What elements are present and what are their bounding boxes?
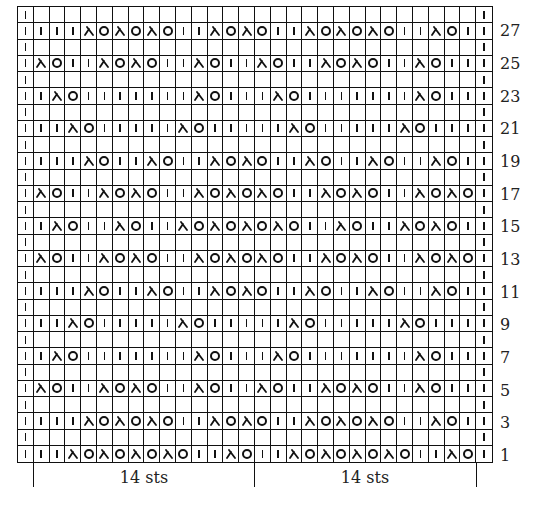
empty-cell bbox=[192, 105, 208, 121]
empty-cell bbox=[144, 430, 160, 446]
knit-stitch-icon bbox=[460, 88, 476, 104]
empty-cell bbox=[397, 300, 413, 316]
yarn-over-icon bbox=[81, 446, 97, 462]
knit-stitch-icon bbox=[445, 316, 461, 332]
empty-cell bbox=[239, 137, 255, 153]
yarn-over-icon bbox=[144, 56, 160, 72]
empty-cell bbox=[460, 202, 476, 218]
knit-stitch-icon bbox=[287, 251, 303, 267]
knit-stitch-icon bbox=[350, 348, 366, 364]
decrease-icon bbox=[302, 283, 318, 299]
empty-cell bbox=[271, 105, 287, 121]
empty-cell bbox=[318, 105, 334, 121]
decrease-icon bbox=[144, 283, 160, 299]
empty-cell bbox=[223, 72, 239, 88]
decrease-icon bbox=[445, 446, 461, 462]
knit-stitch-icon bbox=[366, 88, 382, 104]
empty-cell bbox=[397, 365, 413, 381]
knit-stitch-icon bbox=[397, 283, 413, 299]
empty-cell bbox=[350, 235, 366, 251]
decrease-icon bbox=[97, 186, 113, 202]
empty-cell bbox=[413, 137, 429, 153]
empty-cell bbox=[223, 202, 239, 218]
empty-cell bbox=[50, 202, 66, 218]
empty-cell bbox=[34, 105, 50, 121]
empty-cell bbox=[160, 137, 176, 153]
empty-cell bbox=[81, 170, 97, 186]
knit-stitch-icon bbox=[129, 153, 145, 169]
knit-stitch-icon bbox=[97, 88, 113, 104]
yarn-over-icon bbox=[302, 316, 318, 332]
empty-cell bbox=[113, 72, 129, 88]
empty-cell bbox=[271, 7, 287, 23]
knit-stitch-icon bbox=[18, 7, 34, 23]
yarn-over-icon bbox=[381, 413, 397, 429]
empty-cell bbox=[34, 170, 50, 186]
yarn-over-icon bbox=[445, 218, 461, 234]
empty-cell bbox=[460, 235, 476, 251]
empty-cell bbox=[413, 105, 429, 121]
knit-stitch-icon bbox=[287, 153, 303, 169]
knit-stitch-icon bbox=[18, 235, 34, 251]
yarn-over-icon bbox=[381, 283, 397, 299]
row-label-1: 1 bbox=[500, 448, 536, 464]
knit-stitch-icon bbox=[113, 316, 129, 332]
row-label-17: 17 bbox=[500, 187, 536, 203]
empty-cell bbox=[334, 397, 350, 413]
empty-cell bbox=[113, 300, 129, 316]
knit-stitch-icon bbox=[476, 251, 492, 267]
empty-cell bbox=[81, 7, 97, 23]
yarn-over-icon bbox=[302, 446, 318, 462]
decrease-icon bbox=[271, 88, 287, 104]
knit-stitch-icon bbox=[34, 153, 50, 169]
decrease-icon bbox=[255, 381, 271, 397]
empty-cell bbox=[334, 430, 350, 446]
empty-cell bbox=[334, 40, 350, 56]
decrease-icon bbox=[129, 186, 145, 202]
decrease-icon bbox=[208, 413, 224, 429]
yarn-over-icon bbox=[176, 446, 192, 462]
yarn-over-icon bbox=[160, 413, 176, 429]
knit-stitch-icon bbox=[302, 218, 318, 234]
knit-stitch-icon bbox=[476, 413, 492, 429]
knit-stitch-icon bbox=[350, 316, 366, 332]
yarn-over-icon bbox=[287, 218, 303, 234]
knit-stitch-icon bbox=[192, 283, 208, 299]
knit-stitch-icon bbox=[366, 121, 382, 137]
knit-stitch-icon bbox=[97, 121, 113, 137]
knit-stitch-icon bbox=[223, 381, 239, 397]
knit-stitch-icon bbox=[65, 381, 81, 397]
empty-cell bbox=[350, 7, 366, 23]
yarn-over-icon bbox=[413, 121, 429, 137]
empty-cell bbox=[65, 365, 81, 381]
knit-stitch-icon bbox=[50, 316, 66, 332]
empty-cell bbox=[34, 137, 50, 153]
empty-cell bbox=[144, 137, 160, 153]
empty-cell bbox=[113, 430, 129, 446]
empty-cell bbox=[50, 267, 66, 283]
knit-stitch-icon bbox=[176, 251, 192, 267]
knit-stitch-icon bbox=[255, 446, 271, 462]
empty-cell bbox=[287, 430, 303, 446]
empty-cell bbox=[366, 235, 382, 251]
yarn-over-icon bbox=[255, 23, 271, 39]
empty-cell bbox=[160, 202, 176, 218]
knit-stitch-icon bbox=[50, 121, 66, 137]
decrease-icon bbox=[413, 186, 429, 202]
knit-stitch-icon bbox=[223, 56, 239, 72]
knit-stitch-icon bbox=[460, 283, 476, 299]
repeat-marker-middle bbox=[254, 463, 255, 487]
knit-stitch-icon bbox=[413, 413, 429, 429]
empty-cell bbox=[81, 137, 97, 153]
empty-cell bbox=[334, 235, 350, 251]
yarn-over-icon bbox=[192, 316, 208, 332]
knit-stitch-icon bbox=[129, 316, 145, 332]
empty-cell bbox=[144, 170, 160, 186]
empty-cell bbox=[81, 397, 97, 413]
knit-stitch-icon bbox=[255, 121, 271, 137]
decrease-icon bbox=[413, 251, 429, 267]
empty-cell bbox=[176, 40, 192, 56]
knit-stitch-icon bbox=[476, 218, 492, 234]
empty-cell bbox=[334, 170, 350, 186]
knit-stitch-icon bbox=[113, 121, 129, 137]
